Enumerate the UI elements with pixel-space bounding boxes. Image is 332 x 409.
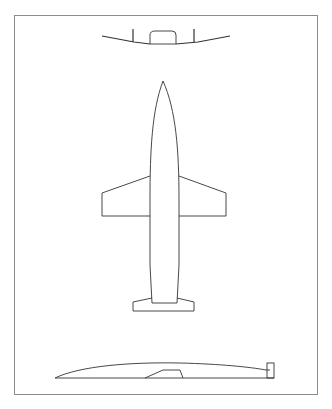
fuselage-front [150, 31, 176, 44]
three-view-drawing [0, 0, 332, 409]
canopy-side [145, 370, 183, 378]
left-wing-front [102, 36, 150, 44]
right-wing-front [176, 36, 230, 44]
left-tail-top [133, 298, 152, 311]
right-tail-top [177, 298, 194, 311]
tail-fin-side [267, 363, 274, 378]
top-view [102, 81, 226, 311]
fuselage-top [150, 81, 179, 303]
right-wing-top [179, 176, 226, 216]
side-view [55, 363, 274, 378]
front-view [102, 29, 230, 44]
left-wing-top [102, 176, 150, 216]
